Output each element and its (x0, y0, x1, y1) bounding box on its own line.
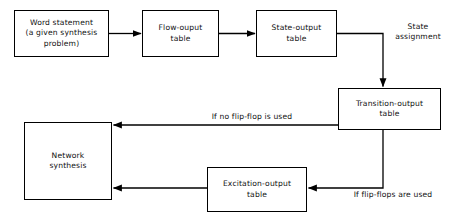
node-word-statement-label: Word statement (a given synthesis proble… (24, 18, 100, 48)
edge-label-flip-flops-are-used: If flip-flops are used (338, 190, 448, 200)
node-transition-output-table: Transition-output table (338, 88, 441, 130)
edge-label-state-assignment: State assignment (389, 22, 447, 42)
node-state-output-table-label: State-output table (270, 23, 324, 43)
node-excitation-output-table: Excitation-output table (207, 167, 307, 212)
flowchart-diagram: Word statement (a given synthesis proble… (0, 0, 449, 223)
node-network-synthesis-label: Network synthesis (47, 151, 88, 171)
node-state-output-table: State-output table (256, 10, 337, 57)
edge-state-output-to-transition-output (337, 34, 383, 87)
node-flow-output-table: Flow-ouput table (142, 10, 219, 57)
node-word-statement: Word statement (a given synthesis proble… (14, 10, 109, 57)
edge-transition-output-to-excitation-output (309, 130, 384, 188)
node-transition-output-table-label: Transition-output table (354, 99, 425, 119)
node-flow-output-table-label: Flow-ouput table (157, 23, 205, 43)
edge-label-no-flip-flop-is-used: If no flip-flop is used (190, 112, 314, 122)
node-network-synthesis: Network synthesis (24, 122, 112, 200)
node-excitation-output-table-label: Excitation-output table (221, 179, 293, 199)
